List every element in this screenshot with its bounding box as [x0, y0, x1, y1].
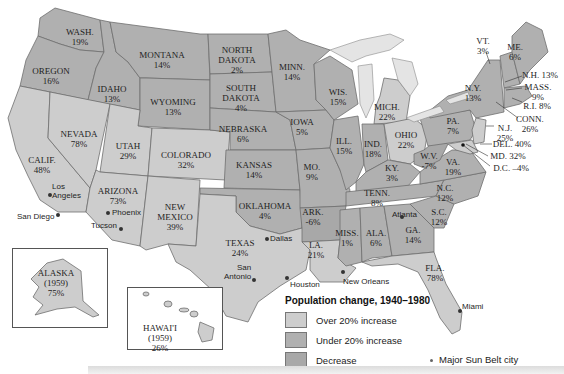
island — [179, 308, 189, 312]
city-label-san-diego: San Diego — [17, 212, 54, 221]
state-label-colorado: COLORADO32% — [161, 150, 211, 170]
state-label-wash: WASH.19% — [66, 27, 94, 47]
state-label-calif: CALIF.48% — [28, 155, 56, 175]
state-label-tenn: TENN.8% — [364, 188, 390, 208]
state-label-sc: S.C.12% — [431, 207, 448, 227]
legend-swatch — [285, 332, 307, 348]
state-label-dc: D.C. –4% — [493, 163, 529, 173]
state-label-kansas: KANSAS14% — [236, 160, 272, 180]
city-marker-tucson — [119, 227, 123, 231]
state-label-ill: ILL.15% — [336, 136, 353, 156]
city-label-phoenix: Phoenix — [112, 208, 141, 217]
state-label-idaho: IDAHO13% — [98, 84, 127, 104]
city-label-atlanta: Atlanta — [392, 210, 417, 219]
state-label-vt: VT.3% — [476, 36, 490, 56]
state-label-south-dakota: SOUTHDAKOTA4% — [222, 83, 259, 113]
state-label-alaska: ALASKA (1959) 75% — [38, 268, 75, 298]
state-label-ala: ALA.6% — [366, 228, 387, 248]
city-label-houston: Houston — [290, 280, 320, 289]
legend-title: Population change, 1940–1980 — [285, 295, 430, 306]
state-label-wis: WIS.15% — [329, 87, 348, 107]
state-label-ny: N.Y.13% — [465, 83, 482, 103]
state-label-utah: UTAH29% — [116, 141, 140, 161]
state-label-md: MD. 32% — [490, 151, 526, 161]
city-label-los-angeles: LosAngeles — [52, 182, 81, 200]
city-marker-icon — [430, 359, 433, 362]
state-label-new-mexico: NEWMEXICO39% — [157, 202, 193, 232]
dc-marker — [461, 143, 465, 147]
legend: Population change, 1940–1980 Over 20% in… — [285, 295, 430, 370]
state-new-jersey — [472, 118, 486, 144]
city-marker-atlanta — [400, 215, 404, 219]
state-label-montana: MONTANA14% — [139, 50, 184, 70]
state-label-del: DEL. 40% — [493, 139, 532, 149]
state-label-fla: FLA.78% — [425, 263, 444, 283]
state-label-pa: PA.7% — [447, 116, 460, 136]
state-label-ind: IND.18% — [364, 139, 382, 159]
state-label-conn: CONN.26% — [516, 114, 544, 134]
city-marker-san-antonio — [252, 278, 256, 282]
city-marker-san-diego — [56, 213, 60, 217]
state-label-hawaii: HAWAI'I (1959) 26% — [143, 323, 177, 353]
city-label-tucson: Tucson — [91, 221, 117, 230]
state-label-ohio: OHIO22% — [395, 130, 418, 150]
lake-michigan — [358, 64, 374, 118]
state-label-mass: MASS.9% — [525, 82, 552, 102]
city-label-miami: Miami — [462, 302, 483, 311]
legend-item-under-20: Under 20% increase — [285, 330, 430, 350]
state-label-texas: TEXAS24% — [226, 238, 255, 258]
city-marker-houston — [285, 276, 289, 280]
state-label-minn: MINN.14% — [279, 62, 305, 82]
state-label-north-dakota: NORTHDAKOTA2% — [218, 45, 255, 75]
state-label-me: ME.6% — [507, 42, 523, 62]
city-label-san-antonio: SanAntonio — [224, 263, 251, 281]
state-label-ark: ARK.-6% — [302, 207, 323, 227]
state-label-oregon: OREGON16% — [32, 66, 70, 86]
state-label-nevada: NEVADA78% — [61, 129, 98, 149]
page-edge-shadow — [88, 366, 564, 374]
island — [190, 311, 198, 317]
state-label-va: VA.19% — [445, 157, 462, 177]
island-big — [198, 322, 214, 342]
state-label-la: LA.21% — [308, 240, 325, 260]
state-label-ri: R.I. 8% — [523, 101, 551, 111]
legend-item-over-20: Over 20% increase — [285, 310, 430, 330]
city-marker-los-angeles — [48, 193, 52, 197]
city-marker-new-orleans — [341, 270, 345, 274]
state-label-wv: W.V.-7% — [420, 151, 438, 171]
island — [143, 292, 149, 296]
city-marker-dallas — [265, 237, 269, 241]
state-label-nh: N.H. 13% — [522, 70, 558, 80]
island — [164, 301, 172, 307]
state-label-ga: GA.14% — [405, 225, 422, 245]
city-label-dallas: Dallas — [270, 234, 292, 243]
state-label-ky: KY.3% — [385, 163, 399, 183]
state-label-wyoming: WYOMING13% — [150, 97, 196, 117]
lake-superior — [330, 34, 404, 62]
state-label-mich: MICH.22% — [374, 102, 400, 122]
state-label-nc: N.C.12% — [436, 183, 453, 203]
state-label-arizona: ARIZONA73% — [98, 186, 139, 206]
legend-swatch — [285, 312, 307, 328]
state-label-iowa: IOWA5% — [290, 117, 314, 137]
state-label-oklahoma: OKLAHOMA4% — [239, 201, 292, 221]
legend-item-sunbelt-city: Major Sun Belt city — [430, 354, 518, 365]
city-marker-phoenix — [106, 211, 110, 215]
city-label-new-orleans: New Orleans — [343, 277, 389, 286]
state-label-mo: MO.9% — [304, 162, 321, 182]
state-label-miss: MISS.1% — [335, 228, 358, 248]
state-label-nebraska: NEBRASKA6% — [219, 124, 268, 144]
